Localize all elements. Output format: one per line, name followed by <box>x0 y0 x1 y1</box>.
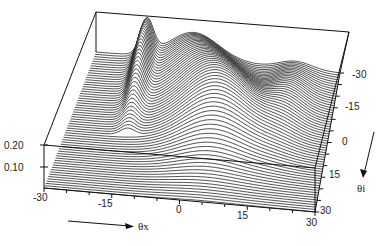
x-tick-label: -30 <box>33 192 48 203</box>
x-tick-label: 0 <box>176 204 182 215</box>
x-axis-arrow <box>68 221 134 229</box>
x-tick-label: -15 <box>98 198 113 209</box>
y-tick-label: 0 <box>342 136 348 147</box>
box-edge-back-top <box>96 12 349 32</box>
z-tick-label: 0.10 <box>4 162 24 173</box>
y-axis-label: θi <box>357 182 365 194</box>
y-tick-label: -15 <box>345 101 360 112</box>
y-tick-label: -30 <box>352 69 367 80</box>
z-tick-label: 0.20 <box>4 140 24 151</box>
waterfall-plot: 0.20 0.10 -30 -15 0 15 30 -30 -15 0 15 3… <box>0 0 386 246</box>
y-axis-arrow <box>360 132 374 178</box>
y-tick-label: 30 <box>320 205 332 216</box>
x-tick-label: 15 <box>237 210 249 221</box>
x-axis-label: θx <box>138 220 149 232</box>
x-tick-label: 30 <box>306 217 318 228</box>
y-tick-label: 15 <box>329 169 341 180</box>
surface-traces <box>44 17 340 213</box>
